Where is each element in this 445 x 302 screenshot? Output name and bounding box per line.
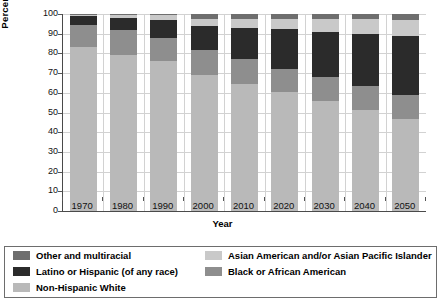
bar-segment [392,36,419,95]
bar-segment [231,59,258,84]
legend-item[interactable]: Asian American and/or Asian Pacific Isla… [205,251,432,261]
gridline-vertical [305,14,306,211]
bar-segment [352,110,379,211]
bar-segment [191,50,218,74]
bar-segment [392,95,419,119]
bar-1970[interactable] [70,14,97,211]
bar-segment [110,18,137,30]
x-tick-mark [102,197,103,201]
y-tick-mark [58,53,62,54]
plot-wrapper: Percentage 0102030405060708090100 197019… [0,0,445,232]
legend-item[interactable]: Other and multiracial [13,251,131,261]
gridline-vertical [386,14,387,211]
stacked-bar-chart: Percentage 0102030405060708090100 197019… [0,0,445,302]
legend-item[interactable]: Latino or Hispanic (of any race) [13,267,178,277]
legend-swatch-icon [13,283,30,292]
x-tick-label: 2050 [383,200,427,211]
legend-item[interactable]: Black or African American [205,267,346,277]
gridline-vertical [144,14,145,211]
y-axis-title: Percentage [0,0,10,62]
legend-label: Latino or Hispanic (of any race) [36,267,178,277]
y-tick-label: 100 [32,9,58,18]
bar-2030[interactable] [312,14,339,211]
bar-segment [271,29,298,68]
bar-segment [392,119,419,211]
bar-1980[interactable] [110,14,137,211]
x-tick-mark [264,197,265,201]
bar-segment [70,14,97,15]
y-tick-mark [58,172,62,173]
y-tick-mark [58,132,62,133]
x-tick-label: 2010 [222,200,266,211]
gridline-vertical [345,14,346,211]
x-tick-mark [344,197,345,201]
x-tick-mark [62,197,63,201]
y-tick-label: 20 [32,167,58,176]
bar-segment [191,19,218,26]
bar-segment [312,32,339,78]
y-tick-label: 10 [32,186,58,195]
bar-segment [231,28,258,59]
bar-segment [150,38,177,61]
bar-1990[interactable] [150,14,177,211]
x-tick-label: 2030 [302,200,346,211]
gridline-vertical [265,14,266,211]
bar-segment [352,19,379,34]
bar-segment [231,19,258,28]
bar-segment [392,14,419,20]
x-tick-label: 2000 [181,200,225,211]
bar-segment [150,15,177,21]
bar-segment [271,14,298,19]
y-tick-label: 0 [32,206,58,215]
bar-segment [150,61,177,211]
y-tick-label: 80 [32,48,58,57]
bar-segment [271,92,298,211]
bar-2040[interactable] [352,14,379,211]
gridline-vertical [103,14,104,211]
chart-legend: Other and multiracialAsian American and/… [4,246,437,298]
x-tick-label: 1970 [60,200,104,211]
x-tick-mark [223,197,224,201]
legend-label: Black or African American [228,267,346,277]
x-tick-label: 2020 [262,200,306,211]
y-tick-mark [58,34,62,35]
y-tick-label: 60 [32,88,58,97]
x-tick-mark [304,197,305,201]
x-tick-mark [385,197,386,201]
bar-segment [70,16,97,25]
bar-segment [70,15,97,16]
bar-segment [312,101,339,211]
legend-swatch-icon [205,267,222,276]
y-tick-label: 70 [32,68,58,77]
y-tick-label: 30 [32,147,58,156]
bar-segment [352,86,379,110]
bar-segment [150,14,177,15]
bar-segment [312,77,339,101]
y-tick-mark [58,191,62,192]
legend-item[interactable]: Non-Hispanic White [13,283,126,293]
legend-swatch-icon [205,251,222,260]
y-tick-mark [58,211,62,212]
bar-segment [150,20,177,38]
legend-label: Asian American and/or Asian Pacific Isla… [228,251,432,261]
bar-segment [70,47,97,211]
bar-2010[interactable] [231,14,258,211]
bar-segment [312,19,339,32]
y-tick-mark [58,14,62,15]
bar-segment [110,55,137,211]
x-tick-label: 1980 [101,200,145,211]
y-tick-label: 40 [32,127,58,136]
bar-segment [191,26,218,50]
legend-label: Non-Hispanic White [36,283,126,293]
bar-segment [312,14,339,19]
y-axis-ticks: 0102030405060708090100 [30,0,58,232]
bar-2020[interactable] [271,14,298,211]
bar-segment [110,14,137,15]
bar-2050[interactable] [392,14,419,211]
x-tick-mark [143,197,144,201]
y-tick-label: 90 [32,29,58,38]
legend-label: Other and multiracial [36,251,131,261]
bar-segment [110,15,137,18]
x-tick-mark [425,197,426,201]
bar-2000[interactable] [191,14,218,211]
